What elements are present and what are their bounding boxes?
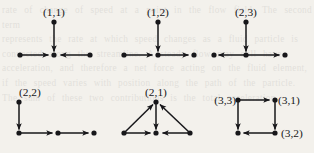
panel-2-2-label: (2,2) xyxy=(19,86,41,99)
directed-graph-figure: (1,1) (1,2) (2,3) xyxy=(0,0,314,153)
node-bottom-right xyxy=(272,130,277,135)
node-centre xyxy=(51,52,56,57)
panel-2-2: (2,2) xyxy=(16,86,96,136)
panel-1-1-label: (1,1) xyxy=(43,6,65,19)
node-top xyxy=(16,99,21,104)
node-top-left xyxy=(235,97,240,102)
figure-stage: rate of change of speed at a point in th… xyxy=(0,0,314,153)
node-base-centre xyxy=(153,130,158,135)
node-right xyxy=(87,52,92,57)
node-top xyxy=(155,19,160,24)
panel-2-3-label: (2,3) xyxy=(235,6,257,19)
panel-1-2: (1,2) xyxy=(121,6,196,58)
panel-1-2-label: (1,2) xyxy=(147,6,169,19)
node-left xyxy=(17,52,22,57)
node-apex xyxy=(153,99,158,104)
node-top xyxy=(243,19,248,24)
panel-3-3-label-bottomright: (3,2) xyxy=(281,127,303,140)
panel-3-3-label-topleft: (3,3) xyxy=(214,94,236,107)
edge-baseleft-to-apex xyxy=(124,105,153,134)
node-top xyxy=(51,19,56,24)
node-middle xyxy=(55,130,60,135)
node-corner xyxy=(16,130,21,135)
node-left xyxy=(211,52,216,57)
panel-1-1: (1,1) xyxy=(17,6,92,58)
panel-2-1-label: (2,1) xyxy=(145,86,167,99)
node-right xyxy=(191,52,196,57)
node-base-left xyxy=(121,130,126,135)
node-base-right xyxy=(187,130,192,135)
node-right xyxy=(282,52,287,57)
node-top-right xyxy=(272,97,277,102)
panel-3-3: (3,3) (3,1) (3,2) xyxy=(214,94,303,140)
edge-baseright-to-apex xyxy=(160,105,190,134)
panel-3-3-label-topright: (3,1) xyxy=(278,94,300,107)
node-left xyxy=(121,52,126,57)
node-bottom-left xyxy=(235,130,240,135)
node-centre xyxy=(155,52,160,57)
node-centre xyxy=(243,52,248,57)
panel-2-3: (2,3) xyxy=(211,6,287,58)
node-end xyxy=(91,130,96,135)
panel-2-1: (2,1) xyxy=(121,86,192,136)
